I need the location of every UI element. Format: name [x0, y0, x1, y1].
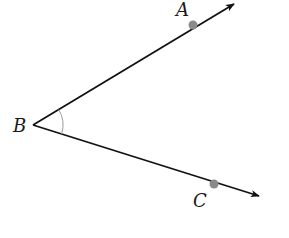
point-a-dot	[189, 21, 198, 30]
point-c-dot	[210, 180, 219, 189]
label-b: B	[13, 117, 26, 135]
label-c: C	[193, 192, 207, 210]
angle-arc	[59, 110, 63, 135]
ray-bc	[33, 125, 259, 196]
angle-diagram	[0, 0, 289, 238]
ray-ba	[33, 4, 234, 125]
label-a: A	[176, 1, 189, 19]
